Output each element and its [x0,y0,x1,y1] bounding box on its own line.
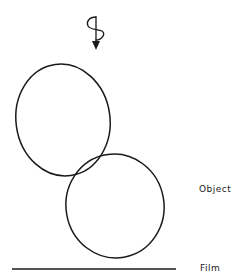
lower-sphere-outline [58,146,173,265]
arrowhead [92,41,100,50]
diagram-canvas [0,0,243,280]
object-label: Object [199,184,231,194]
upper-sphere-outline [9,58,118,182]
film-label: Film [200,263,220,273]
helical-arrow-icon [87,17,103,50]
